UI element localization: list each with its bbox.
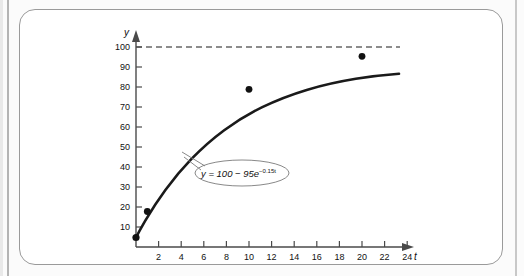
y-tick-label-50: 50 bbox=[106, 143, 130, 152]
x-tick-label-14: 14 bbox=[288, 253, 300, 262]
x-tick-label-12: 12 bbox=[266, 253, 278, 262]
y-tick-label-60: 60 bbox=[106, 123, 130, 132]
equation-lhs: y = 100 − 95e bbox=[201, 168, 259, 179]
data-point-t10 bbox=[246, 86, 253, 93]
equation-exponent: −0.15t bbox=[259, 168, 276, 174]
data-point-markers bbox=[132, 53, 365, 241]
y-tick-label-20: 20 bbox=[106, 203, 130, 212]
graph-canvas bbox=[0, 0, 524, 276]
x-tick-label-24: 24 bbox=[401, 253, 413, 262]
data-point-t20 bbox=[359, 53, 366, 60]
y-axis-label: y bbox=[124, 28, 129, 37]
x-tick-label-4: 4 bbox=[176, 253, 186, 262]
equation-label: y = 100 − 95e−0.15t bbox=[201, 168, 276, 179]
x-axis-arrow bbox=[402, 243, 414, 251]
y-tick-label-100: 100 bbox=[106, 43, 130, 52]
figure-container: 100 90 80 70 60 50 40 30 20 10 2 4 6 8 1… bbox=[0, 0, 524, 276]
x-tick-label-6: 6 bbox=[199, 253, 209, 262]
y-axis-ticks bbox=[136, 47, 142, 227]
y-tick-label-90: 90 bbox=[106, 63, 130, 72]
x-tick-label-20: 20 bbox=[356, 253, 368, 262]
y-tick-label-30: 30 bbox=[106, 183, 130, 192]
data-point-t1 bbox=[144, 208, 151, 215]
x-tick-label-18: 18 bbox=[333, 253, 345, 262]
y-tick-label-10: 10 bbox=[106, 223, 130, 232]
x-tick-label-22: 22 bbox=[379, 253, 391, 262]
y-tick-label-80: 80 bbox=[106, 83, 130, 92]
y-tick-label-70: 70 bbox=[106, 103, 130, 112]
exponential-curve bbox=[136, 74, 399, 238]
x-tick-label-10: 10 bbox=[243, 253, 255, 262]
x-axis-label: t bbox=[414, 252, 417, 261]
y-tick-label-40: 40 bbox=[106, 163, 130, 172]
y-axis-arrow bbox=[132, 30, 140, 42]
x-tick-label-16: 16 bbox=[311, 253, 323, 262]
data-point-t0 bbox=[132, 234, 139, 241]
x-tick-label-2: 2 bbox=[154, 253, 164, 262]
x-axis-ticks bbox=[159, 241, 408, 247]
x-tick-label-8: 8 bbox=[221, 253, 231, 262]
